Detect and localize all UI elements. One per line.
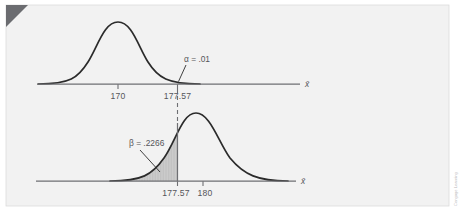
- credit-text: Cengage Learning: [453, 172, 458, 206]
- beta-annotation-label: β = .2266: [129, 138, 165, 148]
- alpha-annotation-label: α = .01: [184, 54, 210, 64]
- null-tick-label-mean: 170: [111, 91, 126, 101]
- statistics-figure: 170 177.57 α = .01 x̄: [0, 0, 464, 215]
- figure-canvas: 170 177.57 α = .01 x̄: [0, 0, 464, 215]
- alternative-axis-xbar-label: x̄: [300, 176, 306, 186]
- null-axis-xbar-label: x̄: [304, 79, 310, 89]
- figure-panel: [6, 5, 449, 206]
- alternative-tick-label-critical: 177.57: [162, 188, 190, 198]
- alternative-tick-label-mean: 180: [198, 188, 213, 198]
